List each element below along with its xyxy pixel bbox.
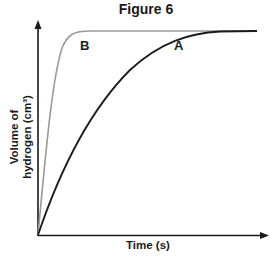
curve-a [38, 31, 257, 235]
x-axis-arrow-icon [260, 232, 269, 239]
curve-b-label: B [80, 38, 89, 53]
y-axis-label-line2: hydrogen (cm³) [21, 95, 34, 179]
y-axis-label-line1: Volume of [8, 95, 21, 179]
curve-b [38, 31, 257, 235]
curve-a-label: A [174, 38, 183, 53]
x-axis-label: Time (s) [126, 239, 170, 251]
y-axis-label: Volume of hydrogen (cm³) [3, 82, 39, 192]
y-axis-arrow-icon [35, 20, 42, 29]
chart-plot-area [0, 0, 272, 257]
